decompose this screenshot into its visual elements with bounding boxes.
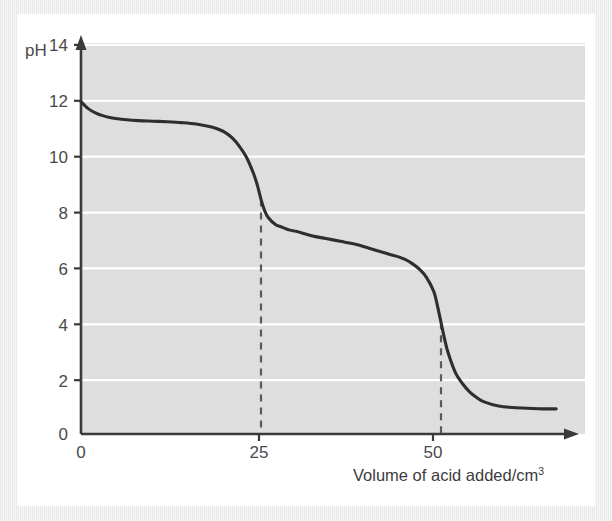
y-tick-label-14: 14 [34,37,68,54]
x-axis-title-main: Volume of acid added/cm [353,466,538,484]
y-tick-label-10: 10 [34,149,68,166]
y-tick-label-0: 0 [34,426,68,443]
x-tick-label-25: 25 [236,444,282,461]
x-axis-title-superscript: 3 [538,465,544,477]
ph-titration-chart [0,0,612,521]
y-tick-label-12: 12 [34,93,68,110]
x-axis-title: Volume of acid added/cm3 [353,467,544,484]
x-tick-label-50: 50 [410,444,456,461]
x-tick-label-0: 0 [58,444,104,461]
y-tick-label-8: 8 [34,205,68,222]
y-tick-label-4: 4 [34,317,68,334]
y-tick-label-6: 6 [34,261,68,278]
y-axis-arrowhead [76,35,87,50]
y-tick-label-2: 2 [34,373,68,390]
